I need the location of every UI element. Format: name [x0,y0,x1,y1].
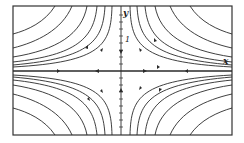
y-axis-label: y [123,9,128,18]
phase-portrait-diagram [0,0,244,143]
x-axis-label: x [223,57,228,66]
y-tick-label-1: 1 [125,36,130,44]
